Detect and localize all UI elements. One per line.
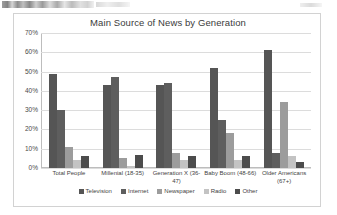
chart-legend: TelevisionInternetNewspaperRadioOther — [14, 188, 322, 194]
legend-label: Other — [242, 188, 257, 194]
bar[interactable] — [272, 153, 280, 168]
bar[interactable] — [296, 162, 304, 168]
bar[interactable] — [218, 120, 226, 168]
legend-swatch-icon — [204, 189, 209, 194]
x-axis-category-label: Older Americans (67+) — [257, 170, 311, 185]
bar[interactable] — [111, 77, 119, 168]
legend-item[interactable]: Internet — [121, 188, 148, 194]
scan-smudge-mid — [96, 2, 130, 7]
bar[interactable] — [264, 50, 272, 168]
bar[interactable] — [103, 85, 111, 168]
bar[interactable] — [57, 110, 65, 168]
legend-item[interactable]: Television — [79, 188, 112, 194]
x-axis-category-label: Millenial (18-35) — [96, 170, 150, 185]
bar[interactable] — [65, 147, 73, 168]
chart-container: Main Source of News by Generation 70%60%… — [13, 13, 321, 207]
bar[interactable] — [156, 85, 164, 168]
bar[interactable] — [180, 160, 188, 168]
bar-group — [96, 33, 150, 168]
y-axis-tick-label: 30% — [25, 107, 38, 114]
gridline — [41, 168, 311, 169]
x-axis-labels: Total PeopleMillenial (18-35)Generation … — [42, 170, 311, 185]
bar-groups — [42, 33, 311, 168]
bar[interactable] — [81, 156, 89, 168]
bar[interactable] — [226, 133, 234, 168]
x-axis-category-label: Baby Boom (48-66) — [203, 170, 257, 185]
bar[interactable] — [119, 158, 127, 168]
x-axis-category-label: Total People — [42, 170, 96, 185]
y-axis-tick-label: 70% — [25, 30, 38, 37]
bar[interactable] — [135, 155, 143, 169]
scan-smudge-right — [300, 3, 322, 7]
legend-label: Television — [86, 188, 112, 194]
y-axis-tick-label: 20% — [25, 126, 38, 133]
bar-group — [150, 33, 204, 168]
legend-swatch-icon — [121, 189, 126, 194]
legend-label: Radio — [211, 188, 227, 194]
bar-group — [257, 33, 311, 168]
x-axis-category-label: Generation X (36-47) — [150, 170, 204, 185]
chart-title: Main Source of News by Generation — [14, 17, 322, 28]
legend-label: Internet — [128, 188, 148, 194]
legend-item[interactable]: Other — [235, 188, 257, 194]
y-axis-tick-label: 60% — [25, 49, 38, 56]
scan-artifact-strip — [0, 0, 337, 12]
bar[interactable] — [164, 83, 172, 168]
bar[interactable] — [242, 156, 250, 168]
scan-smudge-left — [2, 1, 94, 8]
bar[interactable] — [73, 160, 81, 168]
bar[interactable] — [288, 156, 296, 168]
legend-label: Newspaper — [164, 188, 194, 194]
plot-area: 70%60%50%40%30%20%10%0% — [41, 33, 311, 168]
legend-swatch-icon — [157, 189, 162, 194]
bar[interactable] — [188, 156, 196, 168]
legend-swatch-icon — [235, 189, 240, 194]
y-axis-tick-label: 0% — [29, 165, 38, 172]
bar[interactable] — [234, 160, 242, 168]
y-axis-tick-label: 40% — [25, 88, 38, 95]
legend-item[interactable]: Radio — [204, 188, 227, 194]
bar-group — [42, 33, 96, 168]
legend-item[interactable]: Newspaper — [157, 188, 194, 194]
y-axis-tick-label: 50% — [25, 68, 38, 75]
y-axis-tick-label: 10% — [25, 145, 38, 152]
bar[interactable] — [210, 68, 218, 168]
bar[interactable] — [49, 74, 57, 169]
bar[interactable] — [172, 153, 180, 168]
bar-group — [203, 33, 257, 168]
legend-swatch-icon — [79, 189, 84, 194]
bar[interactable] — [127, 166, 135, 168]
bar[interactable] — [280, 102, 288, 168]
